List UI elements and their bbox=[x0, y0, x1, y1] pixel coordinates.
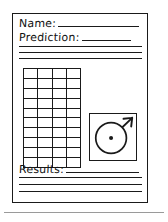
prediction-writing-line[interactable] bbox=[19, 46, 142, 47]
grid-cell[interactable] bbox=[53, 118, 67, 128]
results-writing-line[interactable] bbox=[19, 184, 142, 185]
grid-cell[interactable] bbox=[24, 89, 38, 99]
grid-cell[interactable] bbox=[38, 79, 52, 89]
field-results[interactable]: Results: bbox=[19, 162, 143, 175]
grid-cell[interactable] bbox=[38, 109, 52, 119]
grid-cell[interactable] bbox=[24, 69, 38, 79]
field-prediction-blank-line[interactable] bbox=[82, 40, 131, 41]
grid-cell[interactable] bbox=[67, 69, 81, 79]
results-writing-line[interactable] bbox=[19, 177, 142, 178]
field-name-label: Name: bbox=[19, 18, 57, 29]
grid-cell[interactable] bbox=[53, 99, 67, 109]
grid-cell[interactable] bbox=[38, 99, 52, 109]
field-results-blank-line[interactable] bbox=[66, 172, 139, 173]
field-prediction[interactable]: Prediction: bbox=[19, 30, 143, 43]
grid-cell[interactable] bbox=[67, 138, 81, 148]
grid-cell[interactable] bbox=[24, 99, 38, 109]
grid-cell[interactable] bbox=[24, 128, 38, 138]
prediction-writing-line[interactable] bbox=[19, 58, 142, 59]
grid-cell[interactable] bbox=[53, 138, 67, 148]
worksheet-content: Name: Prediction: bbox=[13, 14, 147, 202]
grid-cell[interactable] bbox=[67, 99, 81, 109]
grid-cell[interactable] bbox=[38, 148, 52, 158]
spinner-svg bbox=[90, 114, 136, 160]
grid-cell[interactable] bbox=[67, 89, 81, 99]
grid-cell[interactable] bbox=[24, 138, 38, 148]
grid-cell[interactable] bbox=[53, 109, 67, 119]
grid-cell[interactable] bbox=[67, 79, 81, 89]
field-name-blank-line[interactable] bbox=[58, 26, 139, 27]
field-name[interactable]: Name: bbox=[19, 16, 143, 29]
grid-cell[interactable] bbox=[67, 118, 81, 128]
grid-cell[interactable] bbox=[67, 148, 81, 158]
grid-cell[interactable] bbox=[53, 79, 67, 89]
results-writing-line[interactable] bbox=[19, 191, 142, 192]
page-separator bbox=[4, 212, 164, 213]
grid-cell[interactable] bbox=[53, 148, 67, 158]
grid-cell[interactable] bbox=[67, 109, 81, 119]
grid-cell[interactable] bbox=[53, 128, 67, 138]
grid-cell[interactable] bbox=[24, 148, 38, 158]
grid-cell[interactable] bbox=[38, 118, 52, 128]
grid-cell[interactable] bbox=[24, 79, 38, 89]
grid-cell[interactable] bbox=[67, 128, 81, 138]
grid-cell[interactable] bbox=[38, 89, 52, 99]
prediction-writing-line[interactable] bbox=[19, 52, 142, 53]
grid-cell[interactable] bbox=[53, 69, 67, 79]
grid-cell[interactable] bbox=[38, 128, 52, 138]
data-recording-grid[interactable] bbox=[23, 68, 81, 168]
worksheet-page: Name: Prediction: bbox=[12, 13, 148, 203]
center-dot-icon bbox=[109, 136, 113, 140]
grid-cell[interactable] bbox=[24, 118, 38, 128]
field-results-label: Results: bbox=[19, 164, 65, 175]
spinner-diagram bbox=[89, 113, 137, 161]
grid-cell[interactable] bbox=[38, 69, 52, 79]
grid-cell[interactable] bbox=[38, 138, 52, 148]
grid-cell[interactable] bbox=[53, 89, 67, 99]
grid-cell[interactable] bbox=[24, 109, 38, 119]
field-prediction-label: Prediction: bbox=[19, 32, 80, 43]
